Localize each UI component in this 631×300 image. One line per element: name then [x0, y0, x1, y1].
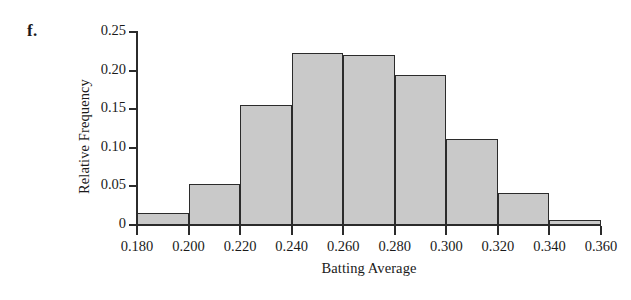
histogram-bar [498, 193, 550, 225]
x-tick-mark [188, 226, 190, 235]
x-tick-label: 0.220 [215, 238, 265, 255]
x-tick-label: 0.340 [524, 238, 574, 255]
y-tick-label: 0.15 [60, 99, 126, 116]
y-tick-mark [129, 147, 137, 149]
y-tick-mark [129, 108, 137, 110]
histogram-bar [549, 220, 601, 225]
histogram-bar [395, 75, 447, 225]
histogram-bar [292, 53, 344, 225]
panel-label: f. [27, 21, 38, 41]
y-tick-label: 0 [60, 215, 126, 232]
y-tick-mark [129, 70, 137, 72]
histogram-bar [446, 139, 498, 225]
y-tick-mark [129, 185, 137, 187]
bars-layer [137, 32, 601, 225]
x-tick-mark [394, 226, 396, 235]
x-tick-mark [600, 226, 602, 235]
histogram-figure: f. Relative Frequency 0.250.200.150.100.… [0, 0, 631, 300]
y-tick-label: 0.25 [60, 22, 126, 39]
x-tick-mark [136, 226, 138, 235]
x-axis-title: Batting Average [137, 260, 601, 277]
x-tick-label: 0.180 [112, 238, 162, 255]
x-tick-mark [342, 226, 344, 235]
x-tick-label: 0.240 [267, 238, 317, 255]
y-tick-label: 0.20 [60, 61, 126, 78]
x-tick-label: 0.260 [318, 238, 368, 255]
histogram-bar [189, 184, 241, 225]
y-tick-label: 0.10 [60, 138, 126, 155]
x-tick-mark [291, 226, 293, 235]
histogram-bar [343, 55, 395, 225]
x-tick-mark [239, 226, 241, 235]
x-tick-label: 0.300 [421, 238, 471, 255]
y-tick-label: 0.05 [60, 176, 126, 193]
x-tick-label: 0.360 [576, 238, 626, 255]
x-tick-label: 0.280 [370, 238, 420, 255]
x-tick-mark [548, 226, 550, 235]
histogram-bar [137, 213, 189, 225]
x-tick-mark [445, 226, 447, 235]
x-tick-mark [497, 226, 499, 235]
y-tick-mark [129, 31, 137, 33]
histogram-bar [240, 105, 292, 225]
x-tick-label: 0.320 [473, 238, 523, 255]
x-tick-label: 0.200 [164, 238, 214, 255]
